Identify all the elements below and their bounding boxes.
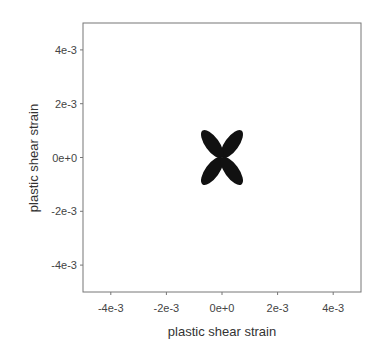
x-tick-label: 2e-3 (267, 302, 289, 314)
y-tick-label: 0e+0 (52, 152, 77, 164)
y-axis-ticks: -4e-3-2e-30e+02e-34e-3 (51, 44, 83, 271)
y-tick-label: -4e-3 (51, 259, 77, 271)
y-tick-label: 4e-3 (55, 44, 77, 56)
x-tick-label: 0e+0 (210, 302, 235, 314)
y-tick-label: 2e-3 (55, 98, 77, 110)
x-tick-label: -2e-3 (154, 302, 180, 314)
x-tick-label: -4e-3 (98, 302, 124, 314)
y-axis-title: plastic shear strain (26, 104, 41, 212)
x-tick-label: 4e-3 (322, 302, 344, 314)
x-axis-ticks: -4e-3-2e-30e+02e-34e-3 (98, 292, 344, 314)
x-axis-title: plastic shear strain (168, 324, 276, 339)
chart: -4e-3-2e-30e+02e-34e-3 -4e-3-2e-30e+02e-… (0, 0, 384, 358)
y-tick-label: -2e-3 (51, 205, 77, 217)
